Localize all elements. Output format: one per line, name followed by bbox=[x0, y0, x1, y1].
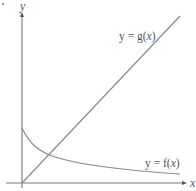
label-f-prefix: y = f( bbox=[145, 157, 171, 170]
label-g-prefix: y = g( bbox=[119, 30, 147, 43]
label-g: y = g(x) bbox=[119, 30, 156, 43]
y-axis-label: y bbox=[19, 0, 26, 13]
x-axis-label: x bbox=[189, 176, 196, 190]
corner-mark bbox=[2, 3, 4, 5]
label-f: y = f(x) bbox=[145, 157, 180, 170]
x-axis-arrow-icon bbox=[182, 181, 187, 185]
function-graph: y x y = g(x) y = f(x) bbox=[0, 0, 196, 191]
label-f-suffix: ) bbox=[176, 157, 180, 170]
label-g-suffix: ) bbox=[152, 30, 156, 43]
